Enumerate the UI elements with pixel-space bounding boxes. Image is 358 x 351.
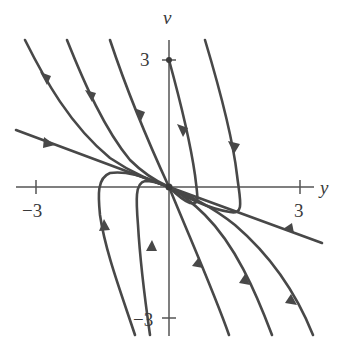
arrow-lower-left-2 (146, 240, 157, 251)
tick-label-v-neg3: −3 (133, 310, 153, 329)
trajectory-lower-right-3 (169, 187, 313, 335)
equilibrium-point (166, 184, 173, 191)
y-axis-label: y (320, 178, 328, 197)
phase-portrait-figure: v y 3 −3 −3 3 (0, 0, 358, 351)
tick-label-y-neg3: −3 (22, 201, 42, 220)
tick-label-y-pos3: 3 (294, 201, 304, 220)
v-axis-label: v (163, 8, 171, 27)
arrow-upper-right (228, 141, 240, 154)
phase-plane (0, 0, 358, 351)
tick-label-v-pos3: 3 (140, 50, 150, 69)
initial-point-v3 (166, 57, 172, 63)
